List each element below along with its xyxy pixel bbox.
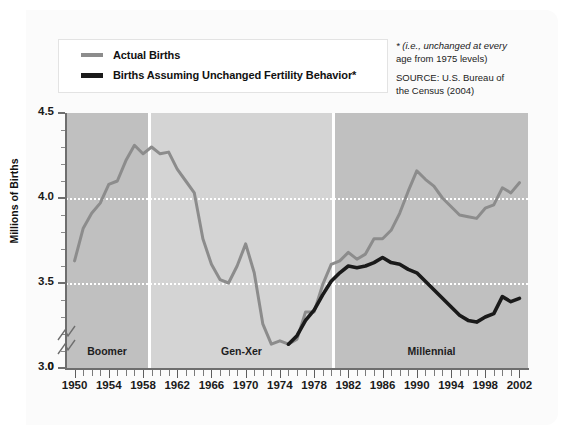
x-tick-1981: [340, 370, 341, 376]
x-tick-1957: [134, 370, 135, 376]
x-tick-label-1962: 1962: [164, 379, 190, 391]
x-tick-1966: [211, 370, 212, 378]
x-tick-1963: [186, 370, 187, 376]
x-tick-2000: [502, 370, 503, 376]
y-tick-minor: [61, 215, 65, 216]
x-tick-1953: [100, 370, 101, 376]
x-tick-1999: [494, 370, 495, 376]
x-tick-1991: [425, 370, 426, 376]
x-tick-1952: [92, 370, 93, 376]
chart-page: Actual Births Births Assuming Unchanged …: [0, 0, 566, 435]
series-line-actual: [75, 145, 520, 344]
chart-note-block: * (i.e., unchanged at every age from 197…: [396, 40, 556, 97]
y-axis: Millions of Births 4.54.03.53.00: [0, 0, 66, 435]
y-tick-minor: [61, 266, 65, 267]
x-tick-1978: [314, 370, 315, 378]
x-tick-label-2002: 2002: [507, 379, 533, 391]
x-tick-1969: [237, 370, 238, 376]
y-tick-minor: [61, 147, 65, 148]
legend-item-actual-births: Actual Births: [81, 49, 180, 61]
x-tick-1988: [400, 370, 401, 376]
x-tick-label-1970: 1970: [233, 379, 259, 391]
footnote-line-1: * (i.e., unchanged at every: [396, 40, 556, 53]
series-line-unchanged: [288, 258, 519, 345]
y-tick-3-5: [58, 282, 65, 284]
source-line-1: SOURCE: U.S. Bureau of: [396, 72, 556, 85]
x-tick-label-1974: 1974: [267, 379, 293, 391]
x-tick-1992: [434, 370, 435, 376]
x-tick-label-1990: 1990: [404, 379, 430, 391]
x-tick-label-1958: 1958: [130, 379, 156, 391]
x-tick-1950: [75, 370, 76, 378]
x-tick-1955: [117, 370, 118, 376]
x-tick-1956: [126, 370, 127, 376]
x-tick-1965: [203, 370, 204, 376]
y-tick-4-0: [58, 197, 65, 199]
x-tick-1959: [152, 370, 153, 376]
y-tick-minor: [61, 130, 65, 131]
x-tick-1976: [297, 370, 298, 376]
y-tick-0: [58, 367, 65, 369]
x-tick-label-1978: 1978: [301, 379, 327, 391]
x-tick-label-1954: 1954: [96, 379, 122, 391]
chart-legend: Actual Births Births Assuming Unchanged …: [58, 39, 388, 93]
x-tick-1985: [374, 370, 375, 376]
x-tick-1998: [485, 370, 486, 378]
x-tick-1990: [417, 370, 418, 378]
x-tick-1961: [169, 370, 170, 376]
legend-item-unchanged-fertility: Births Assuming Unchanged Fertility Beha…: [81, 69, 356, 81]
footnote-line-2: age from 1975 levels): [396, 53, 556, 66]
x-tick-1971: [254, 370, 255, 376]
y-tick-label-4-0: 4.0: [24, 190, 54, 202]
x-tick-1958: [143, 370, 144, 378]
series-lines: [66, 113, 528, 368]
x-tick-1972: [263, 370, 264, 376]
legend-label-actual-births: Actual Births: [113, 49, 180, 61]
y-tick-label-0: 0: [24, 360, 54, 372]
y-tick-label-3-5: 3.5: [24, 275, 54, 287]
x-tick-2002: [519, 370, 520, 378]
legend-swatch-actual-births: [81, 53, 103, 57]
y-tick-minor: [61, 300, 65, 301]
x-tick-label-1998: 1998: [472, 379, 498, 391]
x-tick-1973: [271, 370, 272, 376]
x-tick-1994: [451, 370, 452, 378]
x-tick-label-1994: 1994: [438, 379, 464, 391]
x-tick-1977: [306, 370, 307, 376]
x-tick-1996: [468, 370, 469, 376]
x-tick-1983: [357, 370, 358, 376]
x-tick-1951: [83, 370, 84, 376]
x-tick-1984: [365, 370, 366, 376]
x-tick-1979: [323, 370, 324, 376]
x-tick-1986: [383, 370, 384, 378]
x-tick-label-1966: 1966: [199, 379, 225, 391]
x-tick-label-1950: 1950: [62, 379, 88, 391]
x-tick-1993: [442, 370, 443, 376]
axis-break-icon: [56, 324, 76, 364]
y-tick-minor: [61, 317, 65, 318]
x-tick-1960: [160, 370, 161, 376]
x-tick-1975: [288, 370, 289, 376]
legend-swatch-unchanged-fertility: [81, 73, 103, 78]
x-tick-1987: [391, 370, 392, 376]
x-tick-1997: [477, 370, 478, 376]
y-tick-minor: [61, 181, 65, 182]
y-tick-4-5: [58, 112, 65, 114]
y-tick-label-4-5: 4.5: [24, 105, 54, 117]
legend-label-unchanged-fertility: Births Assuming Unchanged Fertility Beha…: [113, 69, 356, 81]
x-tick-1974: [280, 370, 281, 378]
x-tick-1968: [229, 370, 230, 376]
y-tick-minor: [61, 164, 65, 165]
x-tick-1964: [194, 370, 195, 376]
y-axis-title: Millions of Births: [8, 141, 20, 261]
y-tick-minor: [61, 249, 65, 250]
plot-area: Boomer Gen-Xer Millennial: [66, 113, 528, 368]
x-tick-1954: [109, 370, 110, 378]
x-tick-1995: [460, 370, 461, 376]
x-tick-1982: [348, 370, 349, 378]
source-line-2: the Census (2004): [396, 85, 556, 98]
x-tick-1989: [408, 370, 409, 376]
y-tick-minor: [61, 232, 65, 233]
x-tick-2001: [511, 370, 512, 376]
x-tick-label-1982: 1982: [336, 379, 362, 391]
